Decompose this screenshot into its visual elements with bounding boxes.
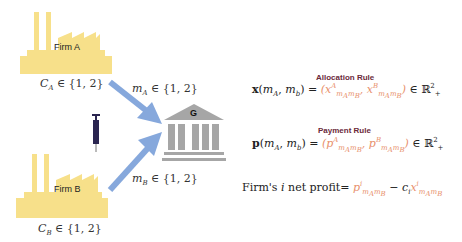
syringe-icon <box>92 114 100 152</box>
firm-b-label: Firm B <box>54 184 81 194</box>
government-label: G <box>190 108 197 118</box>
payment-rule-title: Payment Rule <box>318 126 371 135</box>
firm-a-label: Firm A <box>54 42 80 52</box>
allocation-rule-title: Allocation Rule <box>316 73 374 82</box>
message-a: mA ∈ {1, 2} <box>132 82 198 97</box>
firm-b-cost: CB ∈ {1, 2} <box>38 222 102 237</box>
diagram-graphics <box>0 0 462 242</box>
firm-a-cost: CA ∈ {1, 2} <box>40 77 104 92</box>
payment-formula: p(mA, mb) = (pAmAmB, pBmAmB) ∈ ℝ2+ <box>252 136 443 154</box>
allocation-formula: x(mA, mb) = (xAmAmB, xBmAmB) ∈ ℝ2+ <box>252 82 441 100</box>
message-b: mB ∈ {1, 2} <box>132 172 198 187</box>
net-profit-formula: Firm's i net profit= pimAmB − ciximAmB <box>242 180 442 198</box>
